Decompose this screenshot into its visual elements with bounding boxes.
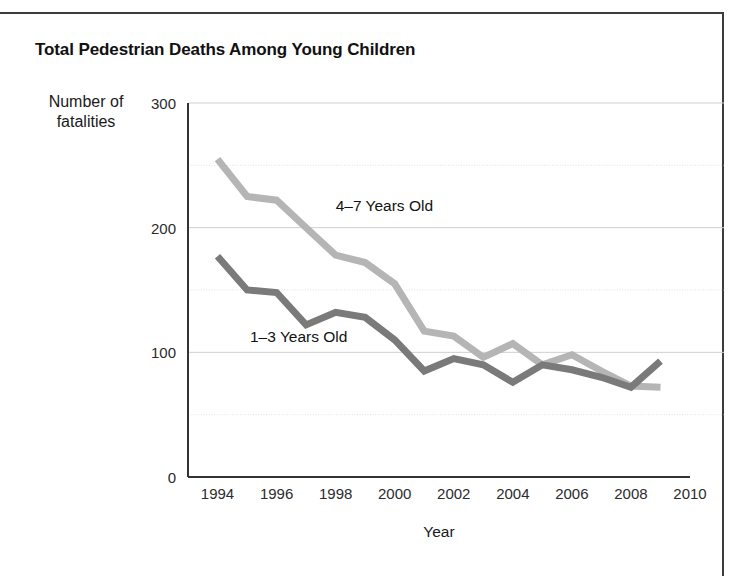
y-tick-labels-group: 0100200300 (151, 95, 176, 486)
y-tick-label: 100 (151, 344, 176, 361)
gridlines-group (188, 103, 724, 415)
x-tick-label: 2008 (614, 485, 647, 502)
x-tick-label: 2004 (496, 485, 529, 502)
y-tick-label: 300 (151, 95, 176, 112)
x-tick-label: 2010 (673, 485, 706, 502)
y-tick-label: 0 (168, 469, 176, 486)
series-label: 1–3 Years Old (250, 328, 347, 345)
x-tick-label: 2006 (555, 485, 588, 502)
y-tick-label: 200 (151, 220, 176, 237)
chart-figure-frame: Total Pedestrian Deaths Among Young Chil… (0, 12, 724, 576)
series-annotations-group: 4–7 Years Old1–3 Years Old (250, 197, 433, 345)
series-label: 4–7 Years Old (336, 197, 433, 214)
data-series-group (218, 159, 661, 387)
line-chart-plot: 0100200300 19941996199820002002200420062… (0, 14, 724, 576)
x-tick-label: 2002 (437, 485, 470, 502)
x-tick-label: 1996 (260, 485, 293, 502)
x-axis-title: Year (423, 523, 454, 540)
x-tick-label: 1998 (319, 485, 352, 502)
x-tick-label: 2000 (378, 485, 411, 502)
x-tick-label: 1994 (201, 485, 234, 502)
series-line (218, 159, 661, 387)
x-tick-labels-group: 199419961998200020022004200620082010 (201, 485, 707, 502)
